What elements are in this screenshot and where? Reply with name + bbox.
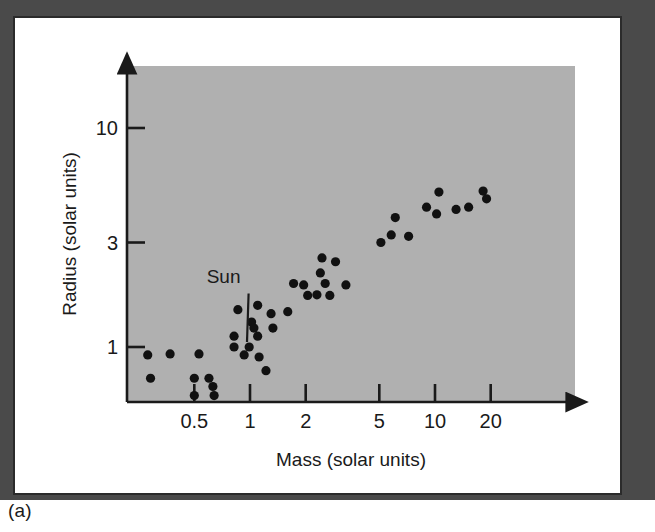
x-tick-label: 5 bbox=[374, 410, 385, 432]
figure-caption: (a) bbox=[8, 500, 32, 522]
data-point bbox=[341, 280, 350, 289]
y-tick-label: 3 bbox=[107, 232, 118, 254]
data-point bbox=[434, 187, 443, 196]
y-tick-label: 1 bbox=[107, 336, 118, 358]
data-point bbox=[253, 301, 262, 310]
data-point bbox=[376, 238, 385, 247]
data-point bbox=[190, 391, 199, 400]
data-point bbox=[143, 350, 152, 359]
data-point bbox=[303, 291, 312, 300]
x-tick-label: 1 bbox=[244, 410, 255, 432]
data-point bbox=[240, 350, 249, 359]
data-point bbox=[422, 203, 431, 212]
data-point bbox=[482, 194, 491, 203]
y-tick-label: 10 bbox=[96, 117, 118, 139]
x-tick-label: 20 bbox=[480, 410, 502, 432]
y-axis-title: Radius (solar units) bbox=[59, 152, 80, 316]
sun-annotation-label: Sun bbox=[207, 266, 241, 287]
data-point bbox=[283, 307, 292, 316]
data-point bbox=[312, 290, 321, 299]
data-point bbox=[146, 374, 155, 383]
data-point bbox=[166, 349, 175, 358]
data-point bbox=[464, 203, 473, 212]
data-point bbox=[289, 279, 298, 288]
data-point bbox=[229, 332, 238, 341]
data-point bbox=[299, 280, 308, 289]
data-point bbox=[432, 209, 441, 218]
data-point bbox=[249, 323, 258, 332]
data-point bbox=[268, 323, 277, 332]
data-point bbox=[208, 382, 217, 391]
x-axis-title: Mass (solar units) bbox=[276, 449, 426, 470]
data-point bbox=[316, 268, 325, 277]
data-point bbox=[233, 305, 242, 314]
data-point bbox=[391, 213, 400, 222]
data-point bbox=[404, 232, 413, 241]
data-point bbox=[331, 257, 340, 266]
data-point bbox=[266, 309, 275, 318]
x-tick-label: 2 bbox=[300, 410, 311, 432]
x-tick-label: 0.5 bbox=[180, 410, 208, 432]
data-point bbox=[325, 291, 334, 300]
data-point bbox=[317, 253, 326, 262]
data-point bbox=[204, 374, 213, 383]
data-point bbox=[387, 230, 396, 239]
data-point bbox=[229, 342, 238, 351]
figure-panel-a: 1310 0.51251020 Sun Mass (solar units) R… bbox=[0, 0, 655, 532]
data-point bbox=[190, 374, 199, 383]
data-point bbox=[321, 279, 330, 288]
data-point bbox=[210, 391, 219, 400]
data-point bbox=[253, 332, 262, 341]
data-point bbox=[451, 205, 460, 214]
mass-radius-scatter-chart: 1310 0.51251020 Sun Mass (solar units) R… bbox=[0, 0, 655, 532]
data-point bbox=[245, 342, 254, 351]
data-point bbox=[194, 349, 203, 358]
plot-background bbox=[127, 66, 575, 402]
data-point bbox=[255, 352, 264, 361]
data-point bbox=[261, 366, 270, 375]
x-tick-label: 10 bbox=[424, 410, 446, 432]
